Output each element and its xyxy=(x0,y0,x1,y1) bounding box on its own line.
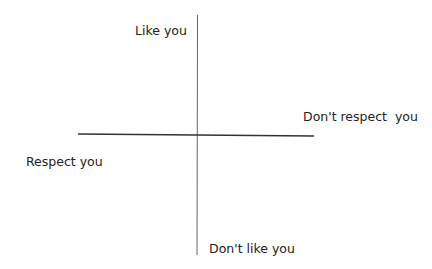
label-like-you: Like you xyxy=(135,25,187,38)
label-respect-you: Respect you xyxy=(26,156,103,169)
quadrant-axes xyxy=(0,0,432,269)
label-dont-respect-you: Don't respect you xyxy=(303,111,418,124)
horizontal-axis xyxy=(78,134,314,136)
label-dont-like-you: Don't like you xyxy=(209,243,295,256)
